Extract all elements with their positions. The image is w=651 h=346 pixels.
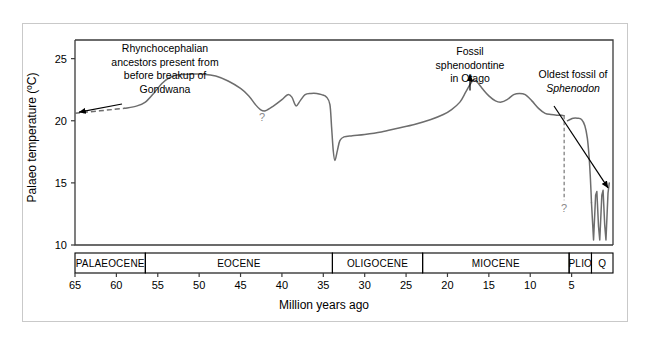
x-tick-label: 60: [110, 279, 122, 291]
y-axis-title: Palaeo temperature (ºC): [25, 73, 39, 203]
epoch-label: OLIGOCENE: [347, 258, 408, 269]
annotation-line: Sphenodon: [546, 82, 600, 94]
annotation-line: sphenodontine: [436, 59, 505, 71]
epoch-label: MIOCENE: [472, 258, 520, 269]
x-tick-label: 10: [524, 279, 536, 291]
x-tick-label: 5: [569, 279, 575, 291]
annotation-sphenodon: Oldest fossil ofSphenodon: [539, 68, 608, 188]
x-tick-label: 15: [483, 279, 495, 291]
temperature-curve: [75, 108, 125, 113]
uncertainty-question-mark: ?: [561, 202, 567, 214]
y-tick-label: 25: [55, 53, 67, 65]
x-axis-title: Million years ago: [279, 298, 369, 312]
x-tick-label: 20: [441, 279, 453, 291]
figure-root: 10152025Palaeo temperature (ºC)PALAEOCEN…: [0, 0, 651, 346]
epoch-label: PLIO: [569, 258, 593, 269]
palaeotemperature-chart: 10152025Palaeo temperature (ºC)PALAEOCEN…: [0, 0, 651, 346]
x-tick-label: 55: [152, 279, 164, 291]
annotation-line: Fossil: [456, 45, 483, 57]
x-tick-label: 35: [317, 279, 329, 291]
annotation-line: before breakup of: [124, 69, 206, 81]
epoch-label: PALAEOCENE: [76, 258, 145, 269]
x-tick-label: 30: [359, 279, 371, 291]
temperature-curve: [125, 74, 565, 161]
annotation-line: Oldest fossil of: [539, 68, 608, 80]
x-tick-label: 65: [69, 279, 81, 291]
annotation-line: ancestors present from: [111, 56, 219, 68]
temperature-curve: [591, 183, 609, 240]
inline-question-mark: ?: [259, 111, 265, 123]
y-tick-label: 20: [55, 115, 67, 127]
epoch-label: Q: [598, 258, 606, 269]
y-tick-label: 15: [55, 177, 67, 189]
x-tick-label: 50: [193, 279, 205, 291]
x-tick-label: 25: [400, 279, 412, 291]
annotation-line: Rhynchocephalian: [122, 42, 209, 54]
epoch-label: EOCENE: [217, 258, 261, 269]
x-tick-label: 40: [276, 279, 288, 291]
y-tick-label: 10: [55, 239, 67, 251]
annotation-gondwana: Rhynchocephalianancestors present frombe…: [79, 42, 219, 112]
annotation-line: Gondwana: [140, 83, 191, 95]
annotation-otago: Fossilsphenodontinein Otago: [436, 45, 505, 91]
x-tick-label: 45: [234, 279, 246, 291]
